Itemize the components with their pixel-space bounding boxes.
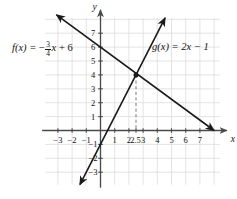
intersection-point (134, 72, 139, 77)
axes (42, 10, 227, 188)
line-g (80, 18, 165, 185)
gridlines (45, 18, 220, 185)
coordinate-plane (0, 0, 237, 199)
function-lines (56, 15, 214, 185)
graph-figure: f(x) = −34x + 6 g(x) = 2x − 1 −3−2−11234… (0, 0, 237, 199)
intersection-dot (134, 72, 139, 77)
